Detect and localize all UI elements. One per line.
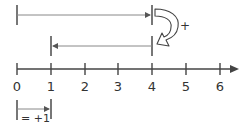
tick-label-6: 6 — [216, 80, 224, 93]
tick-label-5: 5 — [182, 80, 190, 93]
number-line-diagram: 0 1 2 3 4 5 6 + = +1 — [0, 0, 248, 132]
number-line — [17, 63, 239, 75]
unit-legend-label: = +1 — [21, 113, 50, 124]
tick-label-1: 1 — [47, 80, 55, 93]
curved-arrow-icon — [155, 9, 178, 46]
middle-jump-arrow — [51, 36, 152, 56]
tick-label-4: 4 — [148, 80, 156, 93]
top-jump-arrow — [17, 5, 152, 25]
tick-label-2: 2 — [81, 80, 89, 93]
tick-label-0: 0 — [13, 80, 21, 93]
number-line-arrow-icon — [230, 65, 239, 73]
tick-label-3: 3 — [114, 80, 122, 93]
curved-arrow-plus-label: + — [180, 20, 190, 32]
